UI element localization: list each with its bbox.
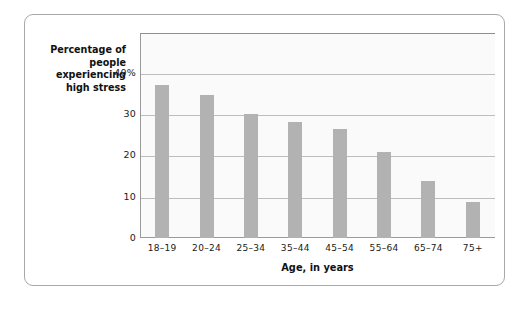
bar-65–74 xyxy=(421,181,435,238)
x-tick-label-25–34: 25–34 xyxy=(229,243,273,253)
x-tick-label-45–54: 45–54 xyxy=(318,243,362,253)
y-tick-label-30: 30 xyxy=(76,108,136,119)
bar-45–54 xyxy=(333,129,347,238)
x-axis-tick-labels: 18–1920–2425–3435–4445–5455–6465–7475+ xyxy=(140,243,495,259)
x-tick-label-65–74: 65–74 xyxy=(406,243,450,253)
x-tick-label-35–44: 35–44 xyxy=(273,243,317,253)
x-tick-label-18–19: 18–19 xyxy=(140,243,184,253)
bar-35–44 xyxy=(288,122,302,238)
bar-series xyxy=(140,33,495,238)
x-tick-label-20–24: 20–24 xyxy=(184,243,228,253)
bar-18–19 xyxy=(155,85,169,238)
bar-25–34 xyxy=(244,114,258,238)
x-tick-label-75+: 75+ xyxy=(451,243,495,253)
y-tick-label-10: 10 xyxy=(76,191,136,202)
y-tick-label-0: 0 xyxy=(76,232,136,243)
x-tick-label-55–64: 55–64 xyxy=(362,243,406,253)
y-tick-label-40%: 40% xyxy=(76,67,136,78)
y-axis-tick-labels: 010203040% xyxy=(74,33,136,238)
x-axis-title: Age, in years xyxy=(140,262,495,273)
bar-75+ xyxy=(466,202,480,238)
bar-20–24 xyxy=(200,95,214,238)
chart-figure: Percentage of people experiencing high s… xyxy=(0,0,523,310)
y-tick-label-20: 20 xyxy=(76,149,136,160)
bar-55–64 xyxy=(377,152,391,238)
